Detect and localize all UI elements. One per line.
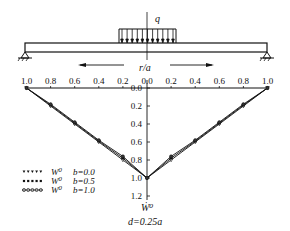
caption: d=0.25a [128,216,162,227]
y-tick-label: 0.2 [131,101,142,111]
x-tick-label: 0.6 [69,76,81,86]
y-tick-label: 0.6 [131,137,143,147]
legend-item: W⁰b=1.0 [22,185,95,195]
x-tick-label: 0.6 [214,76,226,86]
x-tick-label: 0.2 [165,76,176,86]
load-label: q [155,13,160,24]
x-tick-label: 0.4 [93,76,105,86]
y-tick-label: 0.4 [131,119,143,129]
y-axis-label: Ẇ⁰ [141,202,153,213]
left-support-icon [18,52,32,61]
right-arrow-icon [170,63,214,67]
right-support-icon [260,52,274,61]
x-tick-label: 1.0 [21,76,33,86]
y-tick-label: 1.0 [131,173,143,183]
x-tick-label: 1.0 [262,76,274,86]
y-tick-label: 1.2 [131,191,142,201]
y-tick-label: 0.0 [131,83,143,93]
y-tick-label: 0.8 [131,155,143,165]
x-tick-label: 0.2 [117,76,128,86]
x-tick-label: 0.8 [238,76,250,86]
legend-symbol: W⁰ [51,185,62,195]
legend: W⁰b=0.0W⁰b=0.5W⁰b=1.0 [22,167,95,195]
x-tick-label: 0.8 [45,76,57,86]
distributed-load [119,29,176,43]
left-arrow-icon [78,63,124,67]
beam-deflection-diagram: q r/a 1.00.80.60.40.20.00.20.40.60.81.0 [0,0,290,231]
beam [25,43,267,52]
legend-label: b=1.0 [73,185,95,195]
x-tick-label: 0.4 [190,76,202,86]
axis-label-r-over-a: r/a [139,62,151,73]
